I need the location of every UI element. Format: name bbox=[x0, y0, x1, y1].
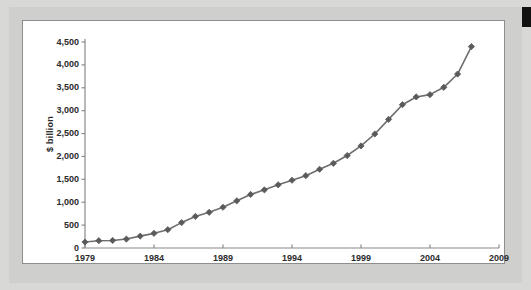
data-point-marker bbox=[234, 198, 240, 204]
plot-area: $ billion 05001,0001,5002,0002,5003,0003… bbox=[23, 21, 506, 265]
data-point-marker bbox=[151, 230, 157, 236]
data-point-marker bbox=[330, 160, 336, 166]
data-point-marker bbox=[289, 177, 295, 183]
data-point-marker bbox=[123, 236, 129, 242]
data-point-marker bbox=[468, 43, 474, 49]
data-point-marker bbox=[206, 209, 212, 215]
data-point-marker bbox=[137, 233, 143, 239]
data-point-marker bbox=[248, 191, 254, 197]
line-chart-svg bbox=[23, 21, 506, 265]
data-point-marker bbox=[317, 166, 323, 172]
figure-page: $ billion 05001,0001,5002,0002,5003,0003… bbox=[0, 0, 531, 290]
data-point-marker bbox=[192, 213, 198, 219]
data-point-marker bbox=[220, 204, 226, 210]
data-point-marker bbox=[303, 173, 309, 179]
data-point-marker bbox=[413, 94, 419, 100]
data-point-marker bbox=[165, 227, 171, 233]
data-point-marker bbox=[261, 187, 267, 193]
data-point-marker bbox=[179, 219, 185, 225]
data-point-marker bbox=[427, 92, 433, 98]
page-edge-mark bbox=[522, 7, 531, 27]
data-point-marker bbox=[96, 238, 102, 244]
data-point-marker bbox=[110, 237, 116, 243]
series-line bbox=[85, 47, 471, 242]
data-point-marker bbox=[82, 239, 88, 245]
data-point-marker bbox=[275, 182, 281, 188]
chart-panel: $ billion 05001,0001,5002,0002,5003,0003… bbox=[22, 20, 505, 264]
